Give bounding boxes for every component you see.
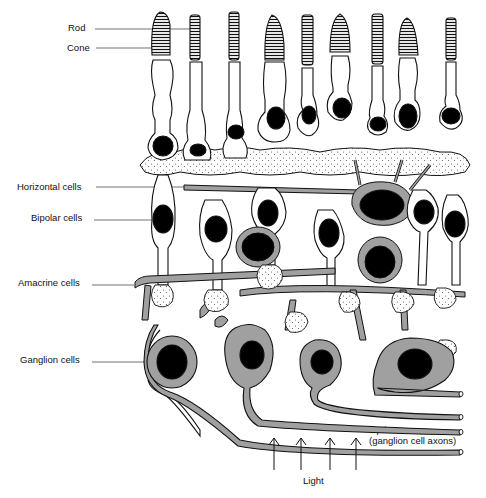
- cone-cell: [258, 15, 290, 142]
- cone-cell: [148, 12, 178, 160]
- retina-diagram: [0, 0, 486, 498]
- axon-ends: [459, 392, 463, 455]
- cone-cell: [394, 18, 420, 130]
- rod-cell: [223, 12, 247, 158]
- rod-cell: [183, 15, 211, 160]
- arrow-up-icon: [296, 438, 306, 470]
- photoreceptors: [148, 12, 462, 160]
- leader-lines: [92, 29, 190, 362]
- rod-cell: [440, 18, 463, 129]
- rod-cell: [297, 15, 318, 136]
- cone-cell: [327, 14, 352, 120]
- rod-cell: [368, 14, 388, 135]
- ganglion-cells: [144, 324, 460, 455]
- arrow-up-icon: [269, 438, 279, 470]
